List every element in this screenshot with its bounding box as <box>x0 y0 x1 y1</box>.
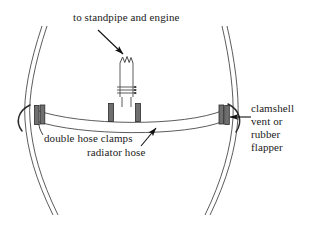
label-to-standpipe-and-engine: to standpipe and engine <box>73 11 179 24</box>
standpipe <box>117 57 136 108</box>
radiator-hose-arrow <box>141 128 156 146</box>
left-clamshell-flapper <box>18 105 30 131</box>
right-hose-clamp <box>219 105 229 125</box>
standpipe-coupling-bolts <box>134 86 136 94</box>
standpipe-arrow <box>98 30 123 54</box>
label-double-hose-clamps: double hose clamps <box>44 132 133 145</box>
radiator-hose <box>36 110 224 133</box>
center-right-hose-clamp <box>136 104 141 122</box>
double-hose-clamps-leader <box>39 124 43 135</box>
label-clamshell-vent-or-rubber-flapper: clamshell vent or rubber flapper <box>251 102 294 154</box>
clamshell-label-line-4: flapper <box>251 141 294 154</box>
label-radiator-hose: radiator hose <box>87 146 145 159</box>
left-hose-clamp <box>35 105 45 125</box>
center-left-hose-clamp <box>109 104 114 122</box>
clamshell-label-line-1: clamshell <box>251 102 294 115</box>
clamshell-label-line-3: rubber <box>251 128 294 141</box>
clamshell-label-line-2: vent or <box>251 115 294 128</box>
technical-diagram: to standpipe and engine double hose clam… <box>0 0 309 239</box>
